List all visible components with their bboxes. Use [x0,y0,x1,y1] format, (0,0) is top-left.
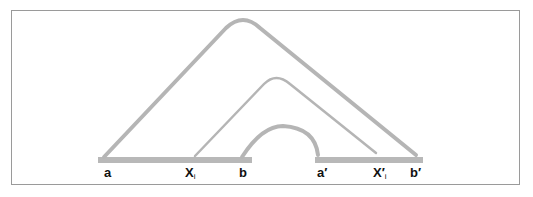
label-b-prime: b′ [410,165,421,180]
label-x-prime-i: X′i [373,165,387,181]
arc-diagram [0,0,533,197]
middle-arc [195,78,376,156]
label-b: b [239,165,247,180]
label-a-prime: a′ [317,165,327,180]
label-xi: Xi [185,165,195,181]
inner-arc [242,126,318,157]
label-a: a [104,165,111,180]
